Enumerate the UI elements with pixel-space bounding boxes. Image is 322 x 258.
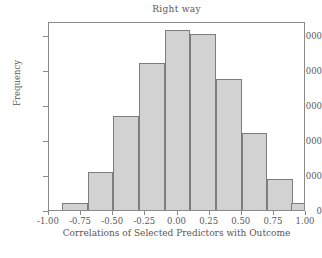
x-tick-mark <box>112 211 113 215</box>
histogram-bar <box>165 30 191 210</box>
x-tick-mark <box>241 211 242 215</box>
histogram-bar <box>113 116 139 211</box>
histogram-bar <box>242 133 268 210</box>
plot-area <box>49 23 304 210</box>
x-tick-mark <box>80 211 81 215</box>
histogram-bar <box>190 34 216 210</box>
x-tick-label: 1.00 <box>283 216 322 226</box>
plot-frame <box>48 22 305 211</box>
histogram-bar <box>267 179 293 210</box>
histogram-figure: Right way Frequency 01000200030004000500… <box>0 0 322 258</box>
histogram-bar <box>216 79 242 210</box>
x-tick-mark <box>144 211 145 215</box>
histogram-bar <box>139 63 165 210</box>
x-axis-label: Correlations of Selected Predictors with… <box>48 228 305 238</box>
histogram-bar <box>291 203 304 210</box>
x-tick-mark <box>177 211 178 215</box>
x-tick-mark <box>273 211 274 215</box>
histogram-bar <box>62 203 88 210</box>
x-tick-mark <box>305 211 306 215</box>
x-tick-mark <box>209 211 210 215</box>
x-tick-mark <box>48 211 49 215</box>
histogram-bar <box>88 172 114 211</box>
chart-title: Right way <box>48 4 305 14</box>
y-axis-label: Frequency <box>12 33 22 133</box>
